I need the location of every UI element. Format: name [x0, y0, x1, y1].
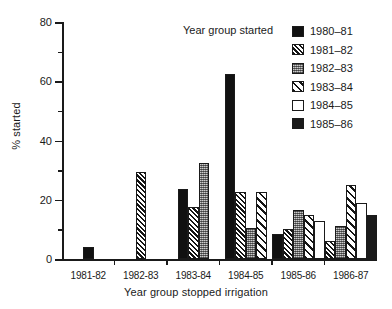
bar: [272, 234, 283, 259]
bar: [235, 192, 246, 259]
legend-swatch-icon: [292, 100, 304, 111]
x-tick: [114, 259, 116, 265]
bar: [283, 229, 294, 259]
y-tick-label: 20: [40, 194, 52, 206]
x-tick-label: 1982-83: [123, 270, 158, 281]
legend-item-label: 1980–81: [310, 25, 353, 37]
legend-swatch-icon: [292, 26, 304, 37]
bar: [367, 215, 378, 259]
y-tick-label: 40: [40, 135, 52, 147]
bar: [225, 74, 236, 259]
y-tick-major: [55, 22, 62, 24]
y-tick-major: [55, 259, 62, 261]
y-tick-minor: [58, 229, 62, 231]
legend-item-label: 1984–85: [310, 99, 353, 111]
legend-item: 1985–86: [292, 115, 353, 134]
x-tick: [166, 259, 168, 265]
legend-item-label: 1982–83: [310, 62, 353, 74]
legend-item: 1984–85: [292, 96, 353, 115]
x-tick-label: 1984-85: [228, 270, 263, 281]
y-tick-label: 0: [46, 253, 52, 265]
x-axis-label: Year group stopped irrigation: [0, 286, 392, 298]
bar: [188, 207, 199, 259]
y-tick-minor: [58, 52, 62, 54]
x-tick-label: 1981-82: [71, 270, 106, 281]
x-tick-label: 1986-87: [333, 270, 368, 281]
legend-swatch-icon: [292, 44, 304, 55]
legend: 1980–811981–821982–831983–841984–851985–…: [292, 22, 353, 133]
bar: [293, 210, 304, 259]
y-axis-line: [62, 22, 64, 259]
legend-item: 1983–84: [292, 78, 353, 97]
x-tick: [219, 259, 221, 265]
legend-swatch-icon: [292, 81, 304, 92]
y-tick-major: [55, 200, 62, 202]
bar: [199, 163, 210, 259]
legend-item-label: 1981–82: [310, 44, 353, 56]
bar: [335, 226, 346, 259]
bar: [304, 215, 315, 259]
y-axis-label: % started: [10, 86, 22, 166]
legend-item-label: 1983–84: [310, 81, 353, 93]
x-tick-label: 1985-86: [281, 270, 316, 281]
x-tick: [324, 259, 326, 265]
legend-title: Year group started: [183, 24, 273, 36]
bar: [256, 192, 267, 259]
bar: [246, 228, 257, 259]
bar: [314, 221, 325, 260]
x-tick-label: 1983-84: [176, 270, 211, 281]
y-tick-label: 80: [40, 16, 52, 28]
legend-item-label: 1985–86: [310, 118, 353, 130]
y-tick-major: [55, 81, 62, 83]
y-tick-major: [55, 141, 62, 143]
bar: [83, 247, 94, 259]
bar: [356, 203, 367, 259]
bar: [325, 241, 336, 259]
bar: [136, 172, 147, 259]
legend-item: 1980–81: [292, 22, 353, 41]
bar: [346, 185, 357, 259]
legend-item: 1982–83: [292, 59, 353, 78]
x-tick: [271, 259, 273, 265]
legend-item: 1981–82: [292, 41, 353, 60]
legend-swatch-icon: [292, 118, 304, 129]
legend-swatch-icon: [292, 63, 304, 74]
bar: [178, 189, 189, 259]
y-tick-minor: [58, 170, 62, 172]
y-tick-minor: [58, 111, 62, 113]
bar-chart: % started 020406080 1981-821982-831983-8…: [0, 0, 392, 309]
y-tick-label: 60: [40, 75, 52, 87]
